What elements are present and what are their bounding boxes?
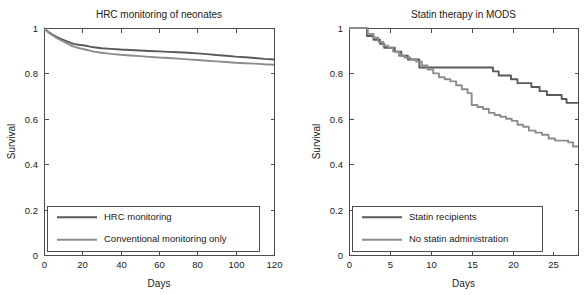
series-line-0: [44, 28, 274, 60]
plot-title: Statin therapy in MODS: [411, 9, 516, 20]
legend-label-0: HRC monitoring: [104, 211, 172, 222]
x-tick-label: 20: [77, 259, 88, 270]
series-line-1: [349, 28, 578, 146]
x-tick-label: 80: [192, 259, 203, 270]
y-tick-label: 0: [338, 250, 343, 261]
y-tick-label: 1: [33, 23, 38, 34]
x-tick-label: 0: [42, 259, 47, 270]
x-tick-label: 25: [548, 259, 559, 270]
x-tick-label: 0: [347, 259, 352, 270]
series-line-0: [349, 28, 578, 103]
y-tick-label: 0: [33, 250, 38, 261]
plot-hrc-monitoring: HRC monitoring of neonates02040608010012…: [0, 0, 294, 295]
x-axis-label: Days: [148, 278, 171, 289]
y-axis-label: Survival: [311, 124, 322, 160]
chart-panel-hrc-monitoring: HRC monitoring of neonates02040608010012…: [0, 0, 294, 295]
x-tick-label: 120: [267, 259, 283, 270]
y-tick-label: 0.4: [25, 159, 38, 170]
plot-title: HRC monitoring of neonates: [96, 9, 222, 20]
x-tick-label: 100: [229, 259, 245, 270]
legend-label-0: Statin recipients: [409, 211, 477, 222]
x-tick-label: 40: [116, 259, 127, 270]
y-tick-label: 0.8: [330, 68, 343, 79]
y-tick-label: 0.6: [25, 114, 38, 125]
x-tick-label: 15: [467, 259, 478, 270]
series-line-1: [44, 28, 274, 65]
chart-panel-statin-mods: Statin therapy in MODS051015202500.20.40…: [294, 0, 588, 295]
figure-container: HRC monitoring of neonates02040608010012…: [0, 0, 588, 295]
x-axis-label: Days: [452, 278, 475, 289]
x-tick-label: 5: [388, 259, 393, 270]
y-tick-label: 0.4: [330, 159, 343, 170]
y-tick-label: 0.2: [330, 205, 343, 216]
y-tick-label: 1: [338, 23, 343, 34]
y-tick-label: 0.6: [330, 114, 343, 125]
y-axis-label: Survival: [6, 124, 17, 160]
legend-label-1: Conventional monitoring only: [104, 233, 227, 244]
y-tick-label: 0.8: [25, 68, 38, 79]
x-tick-label: 60: [154, 259, 165, 270]
plot-statin-mods: Statin therapy in MODS051015202500.20.40…: [294, 0, 588, 295]
x-tick-label: 10: [426, 259, 437, 270]
y-tick-label: 0.2: [25, 205, 38, 216]
x-tick-label: 20: [508, 259, 519, 270]
legend-label-1: No statin administration: [409, 233, 508, 244]
